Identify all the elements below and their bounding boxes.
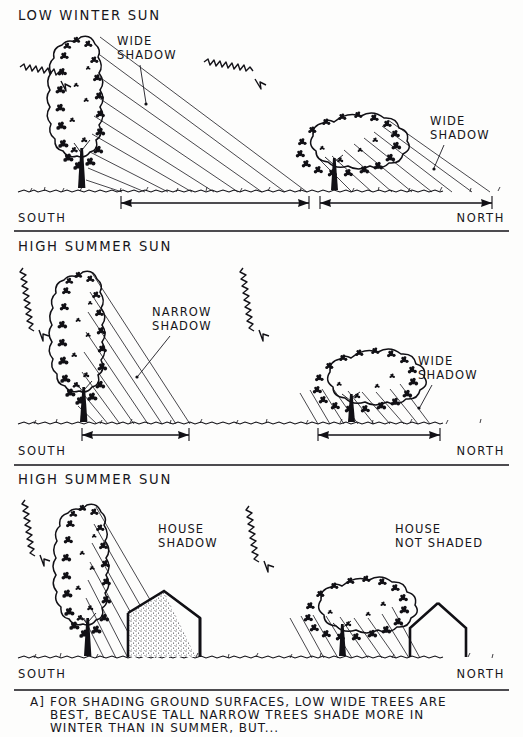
grass-texture-summer-trees (34, 419, 481, 424)
caption-marker: A] (30, 695, 45, 709)
compass-south-summer-houses: SOUTH (18, 667, 66, 681)
label-summer-wide-shadow-line2: SHADOW (418, 368, 478, 382)
label-summer-narrow-shadow: NARROW SHADOW (135, 305, 211, 379)
ground-line-summer-houses (18, 656, 443, 658)
house-not-shaded (410, 603, 466, 657)
tall-narrow-tree-houses (53, 504, 111, 656)
house-shaded (128, 591, 200, 657)
figure-page: LOW WINTER SUN (0, 0, 523, 737)
low-wide-tree-summer (313, 347, 426, 422)
figure-canvas: LOW WINTER SUN (0, 0, 523, 737)
caption-line-3: WINTER THAN IN SUMMER, BUT... (50, 721, 279, 735)
sun-ray-icon-right (240, 268, 269, 341)
label-winter-tall-shadow: WIDE SHADOW (117, 34, 177, 106)
label-house-not-shaded-line2: NOT SHADED (395, 536, 483, 550)
tall-narrow-tree-summer (49, 271, 107, 422)
compass-north-summer-houses: NORTH (457, 667, 505, 681)
label-house-shadow: HOUSE SHADOW (158, 522, 218, 550)
compass-south-winter: SOUTH (18, 211, 66, 225)
sun-ray-icon-left (22, 500, 50, 566)
panel-summer-trees-heading: HIGH SUMMER SUN (18, 239, 172, 254)
sun-ray-icon-left (20, 64, 71, 91)
dimension-summer-narrow-shadow (82, 428, 189, 441)
house-shadow-stipple (128, 591, 196, 657)
panel-summer-houses: HIGH SUMMER SUN (14, 472, 509, 690)
label-winter-wide-shadow: WIDE SHADOW (430, 114, 490, 171)
dimension-winter-wide-shadow (320, 196, 492, 209)
sun-ray-icon-left (20, 268, 49, 341)
ground-line-winter (18, 190, 443, 192)
label-winter-wide-shadow-line2: SHADOW (430, 128, 490, 142)
label-house-not-shaded-line1: HOUSE (395, 522, 441, 536)
caption-line-1: FOR SHADING GROUND SURFACES, LOW WIDE TR… (50, 695, 447, 709)
panel-winter: LOW WINTER SUN (14, 8, 509, 231)
label-summer-narrow-shadow-line1: NARROW (152, 305, 211, 319)
caption-block: A] FOR SHADING GROUND SURFACES, LOW WIDE… (30, 695, 447, 735)
sun-ray-icon-right (246, 506, 274, 572)
dimension-winter-tall-shadow (121, 196, 309, 209)
sun-ray-icon-right (204, 59, 266, 89)
compass-south-summer-trees: SOUTH (18, 444, 66, 458)
label-summer-wide-shadow: WIDE SHADOW (417, 354, 477, 410)
caption-line-2: BEST, BECAUSE TALL NARROW TREES SHADE MO… (50, 708, 424, 722)
panel-summer-trees: HIGH SUMMER SUN (14, 239, 509, 465)
label-summer-narrow-shadow-line2: SHADOW (152, 319, 212, 333)
compass-north-winter: NORTH (457, 211, 505, 225)
label-summer-wide-shadow-line1: WIDE (418, 354, 453, 368)
label-winter-wide-shadow-line1: WIDE (430, 114, 465, 128)
label-house-shadow-line2: SHADOW (158, 536, 218, 550)
compass-north-summer-trees: NORTH (457, 444, 505, 458)
panel-summer-houses-heading: HIGH SUMMER SUN (18, 472, 172, 487)
panel-winter-heading: LOW WINTER SUN (18, 8, 161, 23)
label-winter-tall-shadow-line2: SHADOW (117, 48, 177, 62)
dimension-summer-wide-shadow (318, 428, 440, 441)
label-winter-tall-shadow-line1: WIDE (117, 34, 152, 48)
tall-narrow-tree-winter (47, 36, 105, 188)
ground-line-summer-trees (18, 422, 443, 424)
label-house-shadow-line1: HOUSE (158, 522, 204, 536)
label-house-not-shaded: HOUSE NOT SHADED (395, 522, 483, 550)
